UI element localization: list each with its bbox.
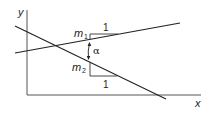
slope-triangle-1: 1 m 1 xyxy=(74,22,118,40)
arrowhead-up-icon xyxy=(88,42,92,46)
angle-alpha-label: α xyxy=(93,45,100,56)
arrowhead-down-icon xyxy=(87,56,91,60)
angle-arrow xyxy=(87,42,91,60)
slope-label-m1: m xyxy=(74,27,83,39)
slope-label-m2: m xyxy=(72,61,81,73)
slope-subscript-2: 2 xyxy=(82,67,86,74)
run-label-1: 1 xyxy=(103,22,109,33)
run-label-2: 1 xyxy=(103,79,109,90)
x-axis-label: x xyxy=(194,97,201,109)
line-2 xyxy=(15,26,166,99)
y-axis-label: y xyxy=(17,6,25,18)
angle-between-lines-diagram: y x 1 m 1 1 m 2 α xyxy=(0,0,214,113)
slope-triangle-2: 1 m 2 xyxy=(72,61,117,90)
slope-subscript-1: 1 xyxy=(84,33,88,40)
